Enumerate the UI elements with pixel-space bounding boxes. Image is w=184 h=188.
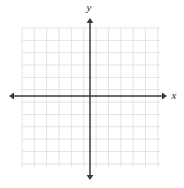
coordinate-plane-figure: x y — [0, 0, 184, 188]
coordinate-plane-svg: x y — [0, 0, 184, 188]
x-axis-label: x — [171, 89, 177, 101]
y-axis-label: y — [86, 1, 92, 13]
